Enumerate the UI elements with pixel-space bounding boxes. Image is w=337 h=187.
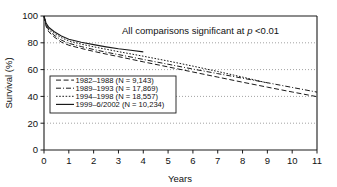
x-tick-label-7: 7: [215, 155, 220, 166]
x-tick-label-4: 4: [141, 155, 146, 166]
x-tick-label-5: 5: [165, 155, 170, 166]
x-tick-label-1: 1: [66, 155, 71, 166]
y-tick-label-0: 0: [33, 144, 38, 155]
x-tick-label-6: 6: [190, 155, 195, 166]
y-tick-label-80: 80: [27, 37, 38, 48]
legend-label-3: 1999–6/2002 (N = 10,234): [76, 100, 165, 109]
x-tick-label-9: 9: [265, 155, 270, 166]
annotation-text-before: All comparisons significant at: [122, 25, 247, 36]
x-tick-label-2: 2: [91, 155, 96, 166]
survival-chart-figure: 020406080100 01234567891011 Years Surviv…: [0, 0, 337, 187]
annotation-text-after: <0.01: [252, 25, 279, 36]
annotation-text: All comparisons significant at p <0.01: [122, 25, 279, 36]
x-axis-title: Years: [168, 173, 192, 184]
y-tick-label-60: 60: [27, 64, 38, 75]
y-tick-label-20: 20: [27, 118, 38, 129]
significance-annotation: All comparisons significant at p <0.01: [122, 25, 279, 36]
y-tick-label-40: 40: [27, 91, 38, 102]
x-tick-label-3: 3: [116, 155, 121, 166]
y-axis-title: Survival (%): [3, 57, 14, 108]
x-tick-label-11: 11: [312, 155, 322, 166]
x-tick-label-10: 10: [287, 155, 298, 166]
x-tick-label-8: 8: [240, 155, 245, 166]
legend: 1982–1988 (N = 9,143)1989–1993 (N = 17,8…: [50, 76, 176, 114]
y-tick-label-100: 100: [22, 10, 38, 21]
x-tick-label-0: 0: [41, 155, 46, 166]
survival-chart-svg: 020406080100 01234567891011 Years Surviv…: [0, 0, 337, 187]
